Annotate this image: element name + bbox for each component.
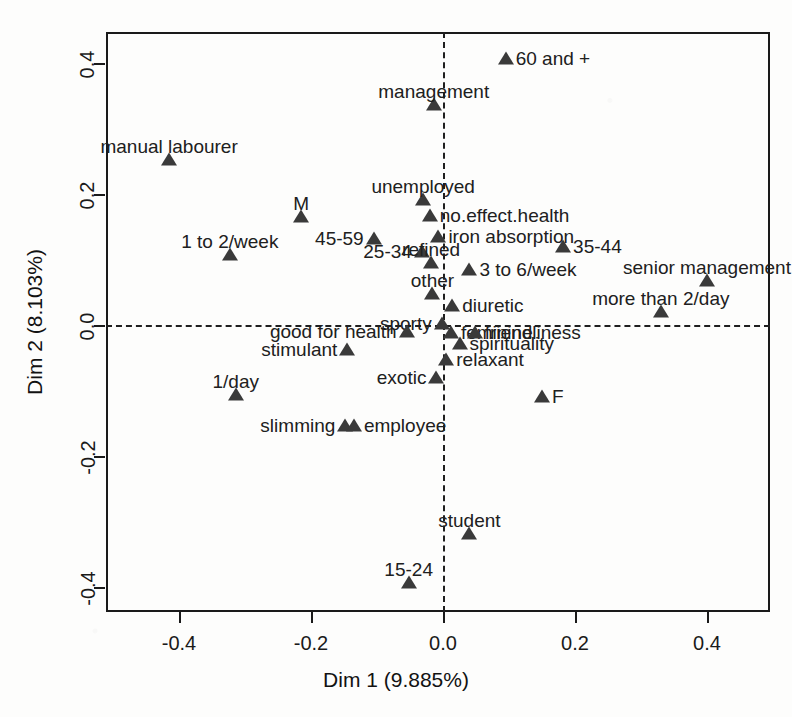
data-point-label: student	[438, 511, 500, 530]
data-point-marker	[438, 353, 454, 366]
data-point-label: exotic	[377, 368, 427, 387]
data-point-label: senior management	[623, 258, 791, 277]
data-point-marker	[428, 370, 444, 383]
x-axis-tick	[575, 612, 577, 623]
data-point-marker	[555, 239, 571, 252]
data-point-label: good for health	[270, 322, 397, 341]
data-point-label: F	[552, 387, 564, 406]
y-axis-tick-label: 0.2	[77, 182, 100, 210]
x-axis-tick	[707, 612, 709, 623]
data-point-label: management	[378, 82, 489, 101]
data-point-label: 45-59	[315, 229, 364, 248]
data-point-label: 15-24	[384, 560, 433, 579]
data-point-label: 1/day	[213, 372, 259, 391]
data-point-marker	[461, 262, 477, 275]
data-point-label: 35-44	[573, 237, 622, 256]
data-point-marker	[422, 208, 438, 221]
chart-page: -0.4-0.20.00.20.4-0.4-0.20.00.20.460 and…	[0, 0, 792, 717]
data-point-marker	[444, 298, 460, 311]
y-axis-tick-label: 0.0	[77, 313, 100, 341]
x-axis-tick	[443, 612, 445, 623]
data-point-label: other	[411, 271, 454, 290]
data-point-marker	[498, 51, 514, 64]
x-axis-tick	[179, 612, 181, 623]
data-point-label: 1 to 2/week	[181, 232, 278, 251]
data-point-label: employee	[364, 416, 446, 435]
x-axis-tick-label: -0.2	[294, 632, 328, 655]
data-point-label: unemployed	[371, 177, 475, 196]
y-axis-tick-label: 0.4	[77, 51, 100, 79]
data-point-label: relaxant	[456, 350, 524, 369]
data-point-label: diuretic	[462, 296, 523, 315]
data-point-marker	[452, 336, 468, 349]
x-axis-tick-label: 0.4	[693, 632, 721, 655]
data-point-label: manual labourer	[100, 137, 237, 156]
data-point-marker	[534, 390, 550, 403]
data-point-marker	[346, 418, 362, 431]
x-axis-tick	[311, 612, 313, 623]
data-point-label: 60 and +	[516, 49, 591, 68]
data-point-label: stimulant	[261, 340, 337, 359]
data-point-label: no.effect.health	[440, 206, 570, 225]
x-axis-tick-label: -0.4	[162, 632, 196, 655]
data-point-marker	[399, 324, 415, 337]
x-axis-title: Dim 1 (9.885%)	[0, 668, 792, 692]
data-point-label: M	[293, 194, 309, 213]
data-point-label: 3 to 6/week	[479, 260, 576, 279]
x-axis-tick-label: 0.2	[561, 632, 589, 655]
data-point-marker	[339, 343, 355, 356]
data-point-label: slimming	[260, 416, 335, 435]
data-point-label: refined	[402, 240, 460, 259]
y-axis-tick-label: -0.4	[77, 571, 100, 605]
y-axis-title: Dim 2 (8.103%)	[23, 32, 47, 612]
y-axis-tick-label: -0.2	[77, 440, 100, 474]
data-point-label: more than 2/day	[592, 289, 729, 308]
x-axis-tick-label: 0.0	[429, 632, 457, 655]
